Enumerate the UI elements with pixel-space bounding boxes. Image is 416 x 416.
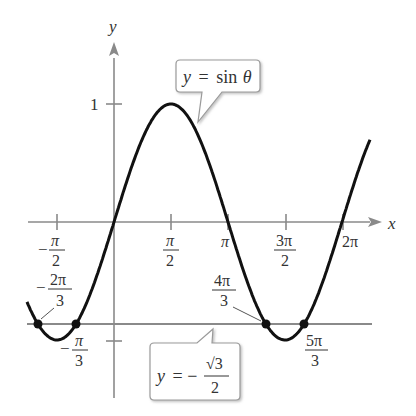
svg-text:4π: 4π [214,272,230,289]
svg-text:√3: √3 [206,355,223,372]
svg-text:y = sin θ: y = sin θ [181,67,252,87]
callout-horizontal-line: y = − √3 2 [150,329,240,400]
svg-text:3π: 3π [276,232,292,249]
svg-text:5π: 5π [306,332,322,349]
svg-text:−: − [36,278,46,297]
svg-text:3: 3 [220,292,228,309]
x-tick-label-pi: π [221,233,230,250]
x-axis-label: x [387,214,396,233]
svg-text:2: 2 [211,379,219,396]
y-axis-arrow-icon [109,42,119,56]
svg-text:2: 2 [52,252,60,269]
x-tick-label-neg-pi-2: − π 2 [38,232,65,269]
svg-text:π: π [51,232,60,249]
svg-text:3: 3 [75,352,83,369]
x-tick-label-pi-2: π 2 [163,232,179,269]
svg-text:3: 3 [311,352,319,369]
svg-text:2: 2 [166,252,174,269]
point-4pi-3 [262,320,271,329]
point-neg-pi-3 [72,320,81,329]
x-axis-arrow-icon [368,217,382,227]
svg-text:−: − [60,339,70,358]
svg-text:−: − [38,240,48,259]
y-axis-label: y [107,17,117,36]
x-tick-label-2pi: 2π [342,233,358,250]
x-tick-label-3pi-2: 3π 2 [274,232,296,269]
sine-graph: x y 1 − π 2 π 2 π 3π 2 2π [0,0,416,416]
svg-text:y = −: y = − [155,366,197,386]
y-tick-label-1: 1 [90,95,99,114]
svg-text:2: 2 [281,252,289,269]
svg-text:3: 3 [56,292,64,309]
svg-text:2π: 2π [50,271,66,288]
point-neg-2pi-3 [34,320,43,329]
callout-sine: y = sin θ [176,60,260,122]
point-label-neg-2pi-3: − 2π 3 [36,271,72,319]
point-5pi-3 [300,320,309,329]
svg-text:π: π [166,232,175,249]
svg-text:π: π [75,332,84,349]
point-label-5pi-3: 5π 3 [305,332,328,369]
